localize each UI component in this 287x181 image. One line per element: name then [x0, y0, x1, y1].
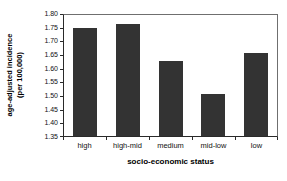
- bar-high-mid: [116, 24, 140, 136]
- y-tick-label: 1.40: [28, 119, 58, 127]
- x-tick-label-medium: medium: [149, 141, 192, 151]
- x-tick-mark: [149, 137, 150, 140]
- x-tick-label-high: high: [63, 141, 106, 151]
- x-tick-label-low: low: [235, 141, 278, 151]
- x-tick-mark: [106, 137, 107, 140]
- x-tick-mark: [277, 137, 278, 140]
- x-tick-label-mid-low: mid-low: [192, 141, 235, 151]
- bar-low: [244, 53, 268, 136]
- x-tick-label-high-mid: high-mid: [106, 141, 149, 151]
- y-tick-label: 1.60: [28, 65, 58, 73]
- y-tick-label: 1.35: [28, 133, 58, 141]
- x-axis-title: socio-economic status: [63, 157, 278, 166]
- bar-high: [73, 28, 97, 136]
- x-tick-mark: [192, 137, 193, 140]
- y-tick-mark: [60, 96, 63, 97]
- y-tick-mark: [60, 55, 63, 56]
- plot-area: [63, 14, 278, 137]
- y-tick-mark: [60, 41, 63, 42]
- y-tick-mark: [60, 69, 63, 70]
- y-tick-label: 1.55: [28, 78, 58, 86]
- y-tick-mark: [60, 82, 63, 83]
- y-tick-label: 1.75: [28, 24, 58, 32]
- y-tick-mark: [60, 110, 63, 111]
- y-axis-title-line1: age-adjusted incidence: [5, 5, 15, 145]
- y-tick-mark: [60, 123, 63, 124]
- y-axis-title-line2: (per 100,000): [15, 5, 25, 145]
- y-tick-mark: [60, 14, 63, 15]
- y-tick-mark: [60, 28, 63, 29]
- bar-chart-figure: age-adjusted incidence (per 100,000) soc…: [0, 0, 287, 181]
- x-tick-mark: [63, 137, 64, 140]
- bar-mid-low: [201, 94, 225, 136]
- x-tick-mark: [235, 137, 236, 140]
- y-tick-label: 1.45: [28, 106, 58, 114]
- bar-medium: [159, 61, 183, 136]
- y-tick-label: 1.65: [28, 51, 58, 59]
- y-tick-label: 1.70: [28, 37, 58, 45]
- y-tick-label: 1.50: [28, 92, 58, 100]
- y-tick-label: 1.80: [28, 10, 58, 18]
